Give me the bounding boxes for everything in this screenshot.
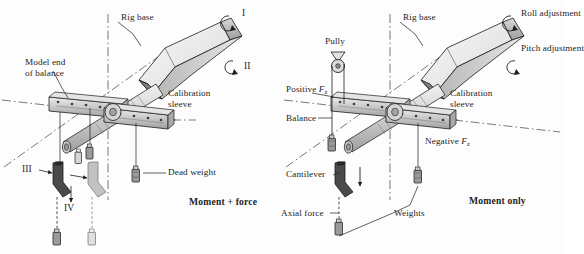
- label-rotation-ii: II: [244, 61, 251, 72]
- label-pitch-adjustment: Pitch adjustment: [521, 43, 584, 54]
- label-rig-base-left: Rig base: [121, 12, 154, 23]
- caption-moment-only: Moment only: [469, 196, 526, 207]
- label-position-iv: IV: [64, 203, 74, 214]
- rotation-arrow-ii: [225, 61, 238, 75]
- negative-fz-weight: [414, 123, 422, 183]
- label-positive-fz: Positive Fz: [286, 84, 327, 97]
- cantilever-bracket-iv: [88, 162, 106, 245]
- label-balance: Balance: [286, 113, 316, 124]
- leader-rig-base-right: [400, 22, 423, 46]
- label-calibration-sleeve-left: Calibrationsleeve: [168, 88, 210, 109]
- label-negative-fz: Negative Fz: [425, 136, 470, 149]
- label-calibration-sleeve-right: Calibrationsleeve: [450, 88, 492, 109]
- dead-weight-left: [132, 166, 140, 182]
- rotation-arrow-pitch: [507, 61, 520, 75]
- label-axial-force: Axial force: [281, 208, 324, 219]
- caption-moment-plus-force: Moment + force: [189, 197, 257, 208]
- label-rotation-i: I: [242, 8, 245, 19]
- label-dead-weight: Dead weight: [168, 167, 216, 178]
- label-cantilever: Cantilever: [286, 169, 325, 180]
- left-assembly: [2, 14, 242, 245]
- label-roll-adjustment: Roll adjustment: [521, 8, 581, 19]
- label-position-iii: III: [22, 164, 32, 175]
- positive-fz-weight: [328, 135, 336, 151]
- label-model-end-of-balance: Model endof balance: [25, 57, 65, 78]
- leader-rig-base-left: [118, 22, 141, 46]
- leader-weights-2: [339, 213, 393, 236]
- label-rig-base-right: Rig base: [403, 12, 436, 23]
- label-weights: Weights: [394, 208, 425, 219]
- label-pulley: Pully: [325, 36, 345, 47]
